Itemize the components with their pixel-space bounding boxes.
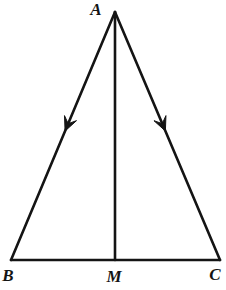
vertex-label-C: C	[209, 265, 221, 284]
side-AC	[115, 12, 220, 260]
vertex-label-M: M	[105, 267, 122, 286]
vertex-label-B: B	[1, 266, 13, 285]
geometry-diagram: ABMC	[0, 0, 226, 290]
triangle-figure: ABMC	[0, 0, 226, 290]
side-AB	[11, 12, 115, 260]
vertex-label-A: A	[89, 0, 101, 19]
